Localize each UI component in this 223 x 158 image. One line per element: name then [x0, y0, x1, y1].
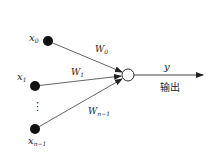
label-xn-1: xn−1	[28, 135, 46, 147]
input-node-x1	[30, 81, 40, 91]
input-node-xn-1	[30, 124, 40, 134]
weight-w0: W0	[95, 44, 108, 55]
output-node	[122, 69, 134, 81]
edge-xn-1	[35, 79, 122, 129]
edge-x0	[48, 41, 122, 72]
perceptron-diagram: x0 x1 xn−1 ⋮ W0 W1 Wn−1 y 输出	[0, 0, 223, 158]
label-x1: x1	[17, 71, 26, 83]
ellipsis: ⋮	[32, 100, 43, 113]
edge-x1	[35, 76, 121, 86]
label-x0: x0	[29, 32, 39, 44]
input-node-x0	[43, 36, 53, 46]
weight-wn-1: Wn−1	[88, 106, 110, 117]
output-label-y: y	[163, 61, 170, 72]
weight-w1: W1	[71, 67, 84, 78]
output-caption: 输出	[160, 81, 180, 93]
